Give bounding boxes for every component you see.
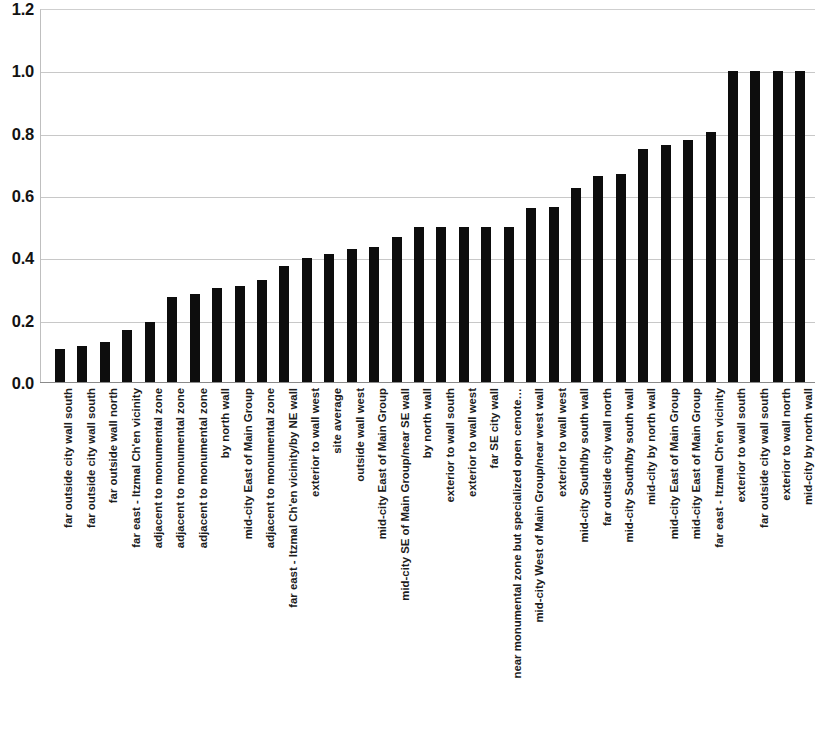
x-axis-tick-label: far SE city wall: [489, 388, 500, 468]
bar: [661, 145, 671, 383]
bar: [347, 249, 357, 383]
bar: [167, 297, 177, 383]
x-axis-tick-label: exterior to wall south: [445, 388, 456, 503]
bar: [683, 140, 693, 383]
plot-area: [40, 9, 815, 383]
bar: [302, 258, 312, 383]
bar: [100, 342, 110, 383]
bar: [728, 71, 738, 383]
x-axis-tick-label: near monumental zone but specialized ope…: [512, 388, 523, 679]
y-axis-tick-label: 0.0: [12, 375, 34, 392]
x-axis-tick-label: mid-city South/by south wall: [624, 388, 635, 542]
bar: [706, 132, 716, 383]
bar: [526, 208, 536, 383]
x-axis-tick-label: far east - Itzmal Ch'en vicinity: [131, 388, 142, 548]
bar: [324, 254, 334, 383]
x-axis-tick-label: far outside city wall south: [86, 388, 97, 528]
x-axis-tick-label: by north wall: [422, 388, 433, 458]
x-axis-tick-label: mid-city East of Main Group: [669, 388, 680, 539]
bar: [638, 149, 648, 383]
bar: [77, 346, 87, 383]
y-axis-tick-label: 1.2: [12, 1, 34, 18]
x-axis-tick-label: site average: [332, 388, 343, 454]
x-axis-tick-label: far outside wall north: [108, 388, 119, 503]
bar: [616, 174, 626, 383]
x-axis-tick-label: far outside city wall south: [63, 388, 74, 528]
bar: [459, 227, 469, 383]
x-axis-tick-label: adjacent to monumental zone: [265, 388, 276, 548]
bar: [279, 266, 289, 383]
bar: [414, 227, 424, 383]
x-axis-tick-label: far east - Itzmal Ch'en vicinity/by NE w…: [288, 388, 299, 608]
x-axis-tick-label: exterior to wall north: [781, 388, 792, 501]
bar: [773, 71, 783, 383]
x-axis-tick-label: mid-city SE of Main Group/near SE wall: [400, 388, 411, 601]
bar: [593, 176, 603, 383]
bar: [212, 288, 222, 383]
x-axis-tick-label: adjacent to monumental zone: [153, 388, 164, 548]
x-axis-tick-label: far outside city wall north: [602, 388, 613, 526]
x-axis-tick-label: exterior to wall west: [557, 388, 568, 497]
y-axis-tick-label: 0.6: [12, 188, 34, 205]
x-axis-tick-label: by north wall: [220, 388, 231, 458]
x-axis-tick-label: mid-city East of Main Group: [377, 388, 388, 539]
bar: [190, 294, 200, 383]
x-axis-tick-label: mid-city South/by south wall: [579, 388, 590, 542]
y-axis-tick-label: 0.4: [12, 250, 34, 267]
x-axis-tick-label: mid-city by north wall: [803, 388, 814, 505]
bar: [504, 227, 514, 383]
bar: [55, 349, 65, 383]
x-axis-tick-label: mid-city East of Main Group: [691, 388, 702, 539]
x-axis-tick-label: adjacent to monumental zone: [175, 388, 186, 548]
x-axis-tick-label: exterior to wall south: [736, 388, 747, 503]
bar: [257, 280, 267, 383]
x-axis-labels: far outside city wall southfar outside c…: [40, 388, 815, 748]
y-axis-tick-label: 1.0: [12, 63, 34, 80]
bar: [369, 247, 379, 383]
bar: [750, 71, 760, 383]
x-axis-tick-label: far outside city wall south: [759, 388, 770, 528]
x-axis-tick-label: outside wall west: [355, 388, 366, 482]
bars-layer: [41, 10, 815, 383]
x-axis-tick-label: exterior to wall west: [310, 388, 321, 497]
x-axis-tick-label: adjacent to monumental zone: [198, 388, 209, 548]
bar: [235, 286, 245, 383]
x-axis-tick-label: mid-city by north wall: [646, 388, 657, 505]
bar: [549, 207, 559, 383]
y-axis-tick-label: 0.2: [12, 312, 34, 329]
bar: [145, 322, 155, 383]
x-axis-tick-label: mid-city East of Main Group: [243, 388, 254, 539]
bar: [122, 330, 132, 383]
x-axis-tick-label: exterior to wall west: [467, 388, 478, 497]
y-axis-tick-label: 0.8: [12, 125, 34, 142]
bar: [481, 227, 491, 383]
bar: [571, 188, 581, 383]
x-axis-baseline: [40, 382, 815, 383]
x-axis-tick-label: far east - Itzmal Ch'en vicinity: [714, 388, 725, 548]
y-axis: 1.21.00.80.60.40.20.0: [0, 0, 40, 392]
bar: [436, 227, 446, 383]
bar: [795, 71, 805, 383]
bar: [392, 237, 402, 383]
bar-chart: 1.21.00.80.60.40.20.0 far outside city w…: [0, 0, 815, 748]
x-axis-tick-label: mid-city West of Main Group/near west wa…: [534, 388, 545, 623]
